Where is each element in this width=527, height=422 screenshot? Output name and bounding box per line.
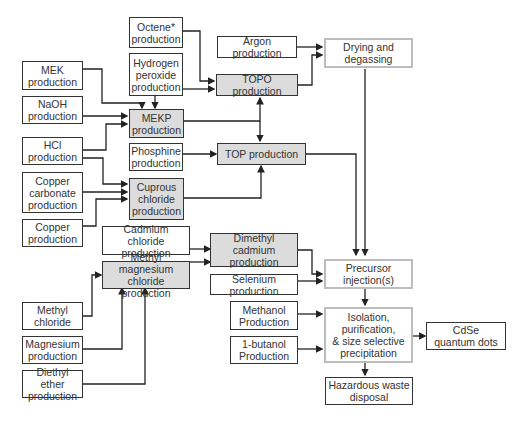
- node-topo-production: TOPO production: [216, 74, 298, 96]
- node-hydrogen-peroxide-production: Hydrogen peroxide production: [129, 53, 183, 96]
- node-hazardous-waste-disposal: Hazardous waste disposal: [325, 377, 413, 405]
- node-argon-production: Argon production: [217, 36, 297, 58]
- node-dimethyl-cadmium-production: Dimethyl cadmium production: [210, 233, 298, 267]
- node-top-production: TOP production: [217, 143, 306, 165]
- node-magnesium-production: Magnesium production: [22, 336, 83, 364]
- node-methanol-production: Methanol Production: [230, 301, 298, 330]
- node-isolation-purification-precipitation: Isolation, purification, & size selectiv…: [324, 307, 413, 363]
- node-methyl-chloride: Methyl chloride: [22, 302, 83, 330]
- node-octene-production: Octene* production: [129, 17, 183, 48]
- node-selenium-production: Selenium production: [210, 274, 298, 295]
- node-precursor-injection: Precursor injection(s): [324, 259, 413, 289]
- node-naoh-production: NaOH production: [22, 96, 83, 124]
- node-methyl-magnesium-chloride-production: Methyl magnesium chloride production: [102, 261, 190, 289]
- node-copper-production: Copper production: [22, 219, 83, 247]
- node-phosphine-production: Phosphine production: [129, 143, 183, 171]
- node-cdse-quantum-dots: CdSe quantum dots: [426, 322, 506, 350]
- node-copper-carbonate-production: Copper carbonate production: [22, 172, 83, 213]
- node-mek-production: MEK production: [22, 61, 83, 90]
- node-diethyl-ether-production: Diethyl ether production: [22, 370, 83, 398]
- node-cuprous-chloride-production: Cuprous chloride production: [129, 178, 184, 220]
- node-1-butanol-production: 1-butanol Production: [230, 336, 298, 364]
- node-mekp-production: MEKP production: [129, 109, 184, 138]
- node-drying-degassing: Drying and degassing: [324, 38, 413, 68]
- node-hcl-production: HCl production: [22, 137, 83, 165]
